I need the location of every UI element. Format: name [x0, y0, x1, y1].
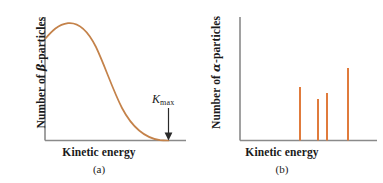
- kmax-annotation: Kmax: [152, 92, 174, 107]
- y-axis-label-b-suffix: -particles: [210, 16, 222, 63]
- x-axis-label-b: Kinetic energy: [186, 146, 378, 158]
- y-axis-label-a-suffix: -particles: [35, 17, 47, 64]
- kmax-arrow-head: [165, 133, 173, 141]
- y-axis-label-a: Number of β-particles: [30, 0, 52, 145]
- x-axis-label-a: Kinetic energy: [3, 146, 195, 158]
- panel-b: Number of α-particles Kinetic energy (b): [191, 0, 383, 183]
- figure-root: Number of β-particles Kmax Kinetic energ…: [0, 0, 383, 183]
- beta-spectrum-curve: [46, 23, 169, 140]
- panel-caption-a: (a): [3, 163, 195, 175]
- beta-symbol: β: [34, 64, 48, 72]
- y-axis-label-b-prefix: Number of: [210, 72, 222, 129]
- panel-a: Number of β-particles Kmax Kinetic energ…: [0, 0, 192, 183]
- kmax-symbol: K: [152, 92, 160, 106]
- kmax-subscript: max: [160, 98, 174, 107]
- alpha-symbol: α: [209, 63, 223, 72]
- y-axis-label-b: Number of α-particles: [205, 0, 227, 145]
- panel-caption-b: (b): [186, 163, 378, 175]
- y-axis-label-a-prefix: Number of: [35, 71, 47, 128]
